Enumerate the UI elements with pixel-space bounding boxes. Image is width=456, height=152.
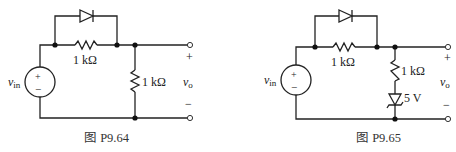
source-label: vin xyxy=(8,75,21,90)
node xyxy=(132,115,137,120)
node xyxy=(392,44,397,49)
diode-symbol xyxy=(339,10,352,22)
figure-caption: 图 P9.64 xyxy=(84,131,130,145)
source-minus-sign: − xyxy=(291,81,297,93)
source-plus-sign: + xyxy=(291,69,297,80)
shunt-resistor-label: 1 kΩ xyxy=(401,64,425,78)
shunt-resistor xyxy=(391,60,399,81)
node xyxy=(132,42,137,47)
voltage-source: + − xyxy=(25,67,55,97)
diode-wire-left xyxy=(315,16,339,47)
wire-bottom xyxy=(40,97,188,118)
node xyxy=(392,116,397,121)
diode-wire-right xyxy=(352,16,377,47)
output-label: vo xyxy=(440,75,450,90)
node xyxy=(374,44,379,49)
figure-p9-64: + − vin 1 kΩ 1 kΩ + − vo xyxy=(8,10,193,145)
series-resistor-label: 1 kΩ xyxy=(73,53,97,67)
wire-bottom xyxy=(296,95,446,119)
wire-top-left xyxy=(40,45,75,67)
node xyxy=(52,42,57,47)
figure-caption: 图 P9.65 xyxy=(356,131,401,145)
output-minus-sign: − xyxy=(185,97,192,111)
node xyxy=(312,44,317,49)
output-minus-sign: − xyxy=(443,98,450,112)
diode-wire-right xyxy=(93,16,117,45)
shunt-resistor xyxy=(131,70,139,92)
series-resistor xyxy=(75,41,97,49)
source-plus-sign: + xyxy=(35,71,41,82)
output-plus-sign: + xyxy=(444,51,451,65)
zener-voltage-label: 5 V xyxy=(404,91,422,105)
output-terminal-bottom xyxy=(445,116,450,121)
circuit-diagrams: + − vin 1 kΩ 1 kΩ + − vo xyxy=(0,0,456,152)
diode-wire-left xyxy=(55,16,80,45)
figure-p9-65: + − vin 1 kΩ 1 kΩ 5 V + − xyxy=(264,10,451,145)
output-label: vo xyxy=(183,75,193,90)
output-terminal-top xyxy=(187,42,192,47)
voltage-source: + − xyxy=(281,65,311,95)
shunt-resistor-label: 1 kΩ xyxy=(142,75,166,89)
source-label: vin xyxy=(264,73,277,88)
output-terminal-top xyxy=(445,44,450,49)
series-resistor xyxy=(333,43,355,51)
output-plus-sign: + xyxy=(186,50,193,64)
wire-top-left xyxy=(296,47,333,65)
node xyxy=(114,42,119,47)
diode-symbol xyxy=(80,10,93,22)
series-resistor-label: 1 kΩ xyxy=(331,55,355,69)
source-minus-sign: − xyxy=(35,83,41,95)
output-terminal-bottom xyxy=(187,115,192,120)
